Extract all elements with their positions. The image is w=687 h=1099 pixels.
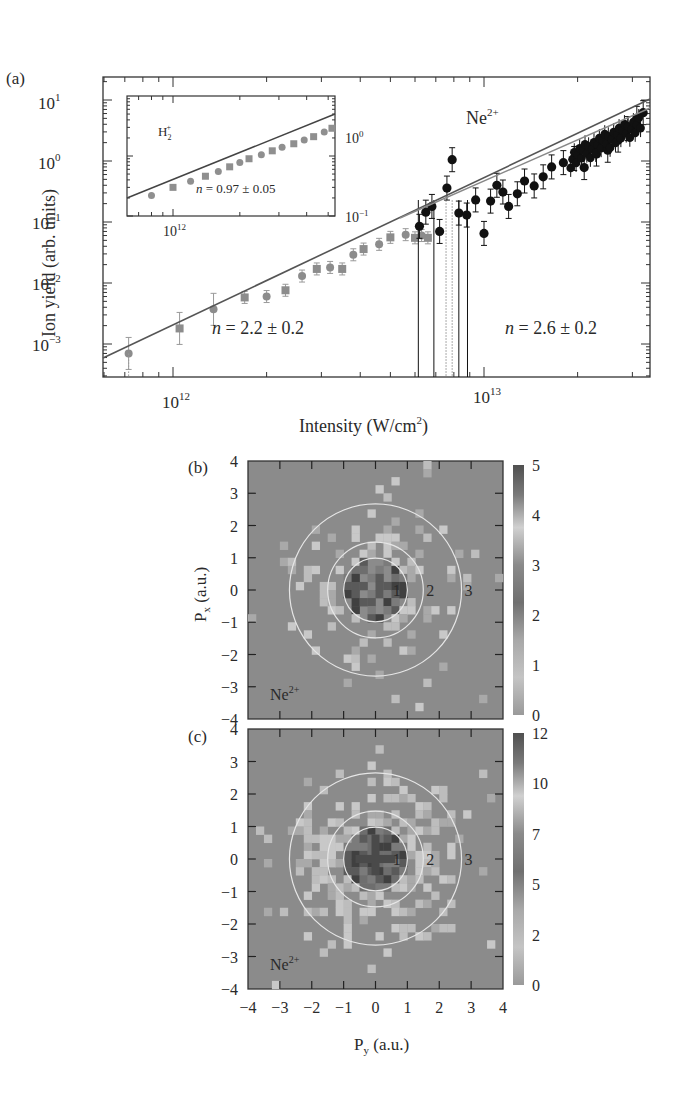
- ring-label: 1: [393, 582, 401, 599]
- colorbar-tick-label: 5: [532, 457, 540, 474]
- y-tick-label: −1: [221, 614, 238, 631]
- y-tick-label: 0: [230, 582, 238, 599]
- panel-b-momentum-heatmap: (b) 12343210−1−2−3−4012345 Ne2+ Px (a.u.…: [188, 453, 540, 728]
- colorbar-tick-label: 12: [532, 725, 548, 742]
- x-tick-label: 2: [435, 999, 443, 1016]
- colorbar-tick-label: 10: [532, 775, 548, 792]
- inset-y-tick-label-m1: 10−1: [345, 208, 369, 225]
- x-tick-label: 3: [467, 999, 475, 1016]
- ring-label: 3: [465, 851, 473, 868]
- ring-label: 2: [426, 851, 434, 868]
- y-tick-label: −2: [221, 647, 238, 664]
- svg-text:1013: 1013: [473, 385, 502, 407]
- heatmap-bMap: 12343210−1−2−3−4012345: [221, 453, 540, 728]
- x-tick-label: 4: [499, 999, 507, 1016]
- ring-label: 3: [465, 582, 473, 599]
- x-tick-label: −3: [271, 999, 288, 1016]
- colorbar-tick-label: 0: [532, 977, 540, 994]
- fit-high-annotation: n = 2.6 ± 0.2: [505, 318, 597, 338]
- x-tick-label: 0: [372, 999, 380, 1016]
- colorbar-tick-label: 3: [532, 557, 540, 574]
- colorbar: [513, 733, 524, 985]
- panel-a-label: (a): [6, 69, 25, 88]
- svg-text:100: 100: [38, 151, 61, 173]
- inset-fit-annotation: n = 0.97 ± 0.05: [196, 181, 275, 196]
- colorbar: [513, 465, 524, 715]
- inset-h2plus-plot: H2+ n = 0.97 ± 0.05 1012 100 10−1: [127, 96, 369, 239]
- colorbar-tick-label: 5: [532, 876, 540, 893]
- panel-a-x-tick-labels: 1012 1013: [162, 385, 502, 412]
- x-tick-label: 1: [403, 999, 411, 1016]
- fit-low-annotation: n = 2.2 ± 0.2: [212, 318, 304, 338]
- y-tick-label: 1: [230, 550, 238, 567]
- colorbar-tick-label: 2: [532, 927, 540, 944]
- y-tick-label: 4: [230, 453, 238, 470]
- panel-a-loglog-plot: (a) 101 100 10−1 10−2 10−3 1012 1013 Ion…: [6, 69, 650, 437]
- svg-text:101: 101: [38, 91, 61, 113]
- y-tick-label: −4: [221, 981, 238, 998]
- colorbar-tick-label: 1: [532, 657, 540, 674]
- y-tick-label: 4: [230, 721, 238, 738]
- y-tick-label: 1: [230, 819, 238, 836]
- x-tick-label: −4: [239, 999, 256, 1016]
- y-tick-label: 3: [230, 485, 238, 502]
- panel-c-momentum-heatmap: (c) 12343210−1−2−3−402571012−4−3−2−10123…: [188, 721, 548, 1056]
- panel-b-label: (b): [188, 458, 208, 477]
- inset-x-tick-label: 1012: [163, 222, 186, 239]
- x-tick-label: −2: [303, 999, 320, 1016]
- y-tick-label: 2: [230, 518, 238, 535]
- colorbar-tick-label: 0: [532, 707, 540, 724]
- colorbar-tick-label: 4: [532, 507, 540, 524]
- inset-y-tick-label-0: 100: [345, 129, 364, 146]
- panel-a-x-axis-label: Intensity (W/cm2): [299, 414, 428, 437]
- ring-label: 1: [393, 851, 401, 868]
- panel-c-x-axis-label: Py (a.u.): [354, 1035, 409, 1056]
- colorbar-tick-label: 7: [532, 826, 540, 843]
- svg-text:1012: 1012: [162, 390, 190, 412]
- panel-b-y-axis-label: Px (a.u.): [191, 567, 212, 622]
- panel-c-label: (c): [188, 727, 207, 746]
- y-tick-label: −3: [221, 679, 238, 696]
- panel-a-y-axis-label: Ion yield (arb. units): [39, 189, 60, 337]
- colorbar-tick-label: 2: [532, 607, 540, 624]
- ne2plus-annotation: Ne2+: [466, 106, 499, 128]
- y-tick-label: 2: [230, 786, 238, 803]
- figure: (a) 101 100 10−1 10−2 10−3 1012 1013 Ion…: [0, 0, 687, 1099]
- y-tick-label: 3: [230, 754, 238, 771]
- y-tick-label: −3: [221, 949, 238, 966]
- y-tick-label: −1: [221, 884, 238, 901]
- ring-label: 2: [426, 582, 434, 599]
- y-tick-label: −2: [221, 916, 238, 933]
- y-tick-label: 0: [230, 851, 238, 868]
- x-tick-label: −1: [335, 999, 352, 1016]
